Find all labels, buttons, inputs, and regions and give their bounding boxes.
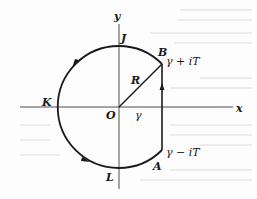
y-axis-label: y	[114, 11, 120, 22]
lower-endpoint-label: γ − iT	[166, 147, 200, 158]
arrow-vertical-segment-icon	[160, 83, 165, 90]
contour-diagram	[0, 0, 257, 199]
x-axis-label: x	[236, 103, 243, 114]
radius-line	[119, 64, 162, 107]
point-K-label: K	[42, 97, 52, 108]
point-J-label: J	[121, 33, 126, 44]
contour-figure: y x O J B K L A R γ γ + iT γ − iT	[0, 0, 257, 199]
point-L-label: L	[106, 172, 114, 183]
upper-endpoint-label: γ + iT	[166, 56, 200, 67]
point-A-label: A	[153, 161, 162, 172]
origin-label: O	[106, 110, 116, 121]
gamma-label: γ	[135, 110, 142, 121]
radius-label: R	[131, 75, 140, 86]
arrow-upper-left-arc-icon	[72, 59, 79, 68]
